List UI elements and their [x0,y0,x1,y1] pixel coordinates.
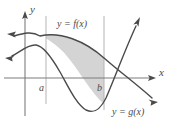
curve-g-left-arrowhead [5,56,15,62]
curve-f-right-arrowhead [149,100,159,106]
y-axis-label: y [29,3,35,15]
curve-f-left-arrowhead [7,31,16,37]
curve-g-label: y = g(x) [111,106,145,118]
y-axis [22,11,28,116]
curve-f-label: y = f(x) [56,18,88,30]
x-axis [4,75,156,81]
x-axis-label: x [158,66,164,78]
area-between-curves-figure: y x a b y = f(x) y = g(x) [0,0,178,127]
curve-g-right-arrowhead [133,17,140,27]
bound-label-a: a [39,82,44,93]
figure-canvas: y x a b y = f(x) y = g(x) [0,0,178,127]
bound-label-b: b [97,82,102,93]
